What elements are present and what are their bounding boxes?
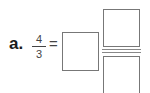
problem-label: a. [9, 34, 23, 54]
denominator-answer-box[interactable] [103, 56, 140, 93]
fraction-bar [32, 46, 46, 47]
whole-number-answer-box[interactable] [62, 32, 99, 71]
given-fraction: 4 3 [32, 33, 46, 60]
fraction-numerator: 4 [32, 33, 46, 45]
answer-fraction-bar [102, 49, 141, 53]
equals-sign: = [49, 35, 58, 52]
numerator-answer-box[interactable] [103, 9, 140, 47]
fraction-denominator: 3 [32, 48, 46, 60]
